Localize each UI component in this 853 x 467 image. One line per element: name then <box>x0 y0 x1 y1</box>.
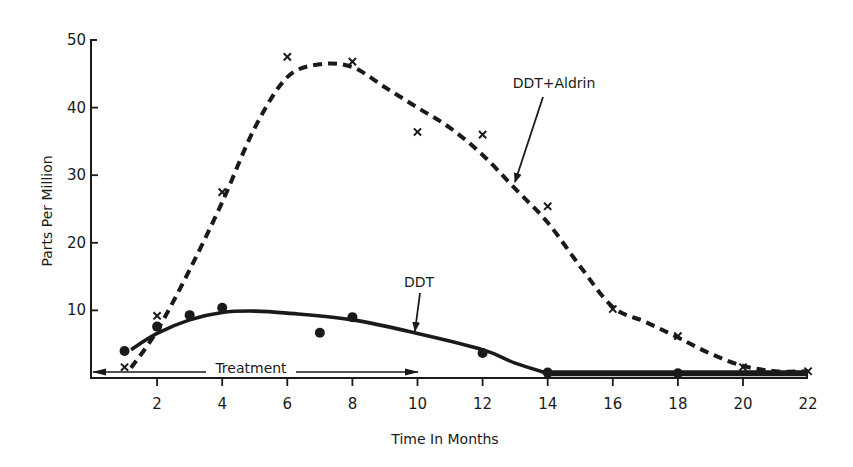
x-tick-label: 12 <box>473 395 492 413</box>
x-tick-label: 4 <box>217 395 227 413</box>
ddt-label: DDT <box>404 274 435 290</box>
x-tick-label: 16 <box>603 395 622 413</box>
y-axis-ticks: 1020304050 <box>67 31 98 319</box>
ddt-annotation: DDT <box>404 274 435 331</box>
dot-marker <box>478 348 488 358</box>
y-tick-label: 10 <box>67 301 86 319</box>
dot-marker <box>120 346 130 356</box>
dot-marker <box>185 310 195 320</box>
y-tick-label: 30 <box>67 166 86 184</box>
y-tick-label: 20 <box>67 234 86 252</box>
axes: 1020304050 246810121416182022 <box>67 31 818 413</box>
x-marker <box>349 58 356 65</box>
x-marker <box>154 312 161 319</box>
x-tick-label: 10 <box>408 395 427 413</box>
ddt-aldrin-label: DDT+Aldrin <box>513 75 596 91</box>
x-tick-label: 8 <box>348 395 358 413</box>
x-tick-label: 14 <box>538 395 557 413</box>
x-tick-label: 2 <box>152 395 162 413</box>
chart-canvas: 1020304050 246810121416182022 Time In Mo… <box>0 0 853 467</box>
x-tick-label: 22 <box>799 395 818 413</box>
x-axis-title: Time In Months <box>390 431 498 447</box>
series-ddt-aldrin <box>121 53 812 375</box>
ddt-arrow <box>415 293 420 331</box>
x-axis-ticks: 246810121416182022 <box>152 378 817 413</box>
x-marker <box>414 128 421 135</box>
y-tick-label: 40 <box>67 99 86 117</box>
x-marker <box>121 364 128 371</box>
x-tick-label: 20 <box>733 395 752 413</box>
dot-marker <box>217 303 227 313</box>
dot-marker <box>152 322 162 332</box>
treatment-annotation: Treatment <box>93 360 418 376</box>
ddt-aldrin-arrow <box>515 97 543 182</box>
x-marker <box>284 53 291 60</box>
ddt-aldrin-annotation: DDT+Aldrin <box>513 75 596 182</box>
axis-frame <box>91 40 807 378</box>
x-marker <box>479 131 486 138</box>
dot-marker <box>543 368 553 378</box>
ddt-aldrin-curve <box>131 63 808 371</box>
x-tick-label: 6 <box>283 395 293 413</box>
dot-marker <box>347 312 357 322</box>
y-tick-label: 50 <box>67 31 86 49</box>
x-tick-label: 18 <box>668 395 687 413</box>
y-axis-title: Parts Per Million <box>39 155 55 266</box>
x-marker <box>544 203 551 210</box>
ddt-curve <box>131 311 548 373</box>
treatment-label: Treatment <box>214 360 287 376</box>
dot-marker <box>315 328 325 338</box>
dot-marker <box>673 368 683 378</box>
